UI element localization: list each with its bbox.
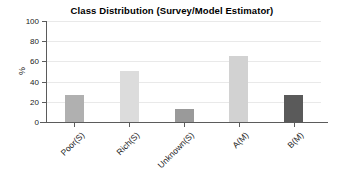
x-tick-label: B(M) bbox=[286, 130, 306, 150]
x-tick-label: Rich(S) bbox=[114, 130, 141, 157]
bar-poors bbox=[65, 95, 84, 122]
y-tick-label: 0 bbox=[35, 118, 39, 127]
plot-area bbox=[47, 21, 321, 122]
x-tick-mark bbox=[129, 123, 130, 127]
y-tick-label: 60 bbox=[30, 57, 39, 66]
x-tick-label: A(M) bbox=[231, 130, 251, 150]
x-tick-mark bbox=[74, 123, 75, 127]
y-tick-label: 20 bbox=[30, 97, 39, 106]
x-tick-mark bbox=[239, 123, 240, 127]
y-axis-label: % bbox=[17, 67, 27, 75]
bar-richs bbox=[120, 71, 139, 123]
x-tick-mark bbox=[294, 123, 295, 127]
y-tick-label: 80 bbox=[30, 37, 39, 46]
x-tick-label: Unknown(S) bbox=[156, 130, 196, 170]
bar-bm bbox=[284, 95, 303, 122]
x-tick-label: Poor(S) bbox=[59, 130, 87, 158]
y-tick-label: 100 bbox=[26, 17, 39, 26]
y-tick-label: 40 bbox=[30, 77, 39, 86]
bar-chart: Class Distribution (Survey/Model Estimat… bbox=[0, 0, 344, 182]
x-tick-mark bbox=[184, 123, 185, 127]
chart-title: Class Distribution (Survey/Model Estimat… bbox=[0, 5, 344, 16]
bar-am bbox=[229, 56, 248, 122]
bar-unknowns bbox=[175, 109, 194, 122]
